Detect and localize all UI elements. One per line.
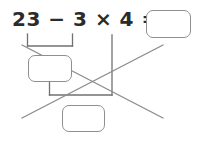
bracket-top (28, 34, 73, 46)
answer-box-result[interactable] (146, 10, 191, 38)
answer-box-step1[interactable] (28, 55, 72, 82)
math-worksheet-canvas: 23 − 3 × 4 = (0, 0, 198, 142)
bracket-bottom (50, 82, 113, 95)
answer-box-step2[interactable] (62, 105, 105, 132)
